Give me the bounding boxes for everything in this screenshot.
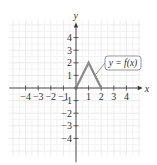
y-tick-label: −3 bbox=[61, 120, 72, 131]
y-tick-label: −1 bbox=[61, 95, 72, 106]
x-tick-label: 1 bbox=[86, 91, 91, 102]
x-tick-label: 4 bbox=[124, 91, 129, 102]
y-tick-label: 3 bbox=[67, 45, 72, 56]
origin-point bbox=[74, 86, 78, 90]
x-tick-label: 3 bbox=[111, 91, 116, 102]
y-tick-label: 2 bbox=[67, 57, 72, 68]
x-tick-label: −4 bbox=[20, 91, 31, 102]
y-tick-label: 4 bbox=[67, 32, 72, 43]
function-label: y = f(x) bbox=[108, 58, 138, 69]
x-axis-label: x bbox=[144, 83, 150, 94]
y-tick-label: −4 bbox=[61, 133, 72, 144]
x-tick-label: −3 bbox=[33, 91, 44, 102]
y-tick-label: 1 bbox=[67, 70, 72, 81]
x-tick-label: −2 bbox=[45, 91, 56, 102]
function-graph: −4−3−2−11234 −4−3−2−11234 x y y = f(x) bbox=[0, 0, 157, 165]
y-axis-label: y bbox=[73, 10, 79, 21]
y-tick-label: −2 bbox=[61, 108, 72, 119]
x-tick-label: 2 bbox=[99, 91, 104, 102]
